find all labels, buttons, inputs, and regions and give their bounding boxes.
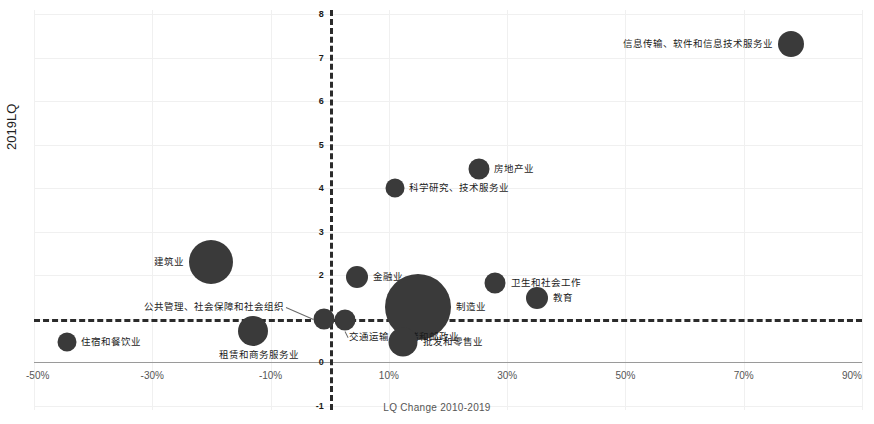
x-axis-baseline (34, 362, 862, 363)
bubble-chart: 2019LQ 876543210-1 -50%-30%-10%10%30%50%… (0, 0, 874, 424)
bubble-label: 教育 (553, 294, 573, 304)
x-axis-tick-label: 30% (497, 370, 517, 381)
gridline-horizontal (34, 14, 862, 15)
y-axis-tick-label: 8 (300, 9, 324, 19)
y-axis-tick-label: 0 (300, 357, 324, 367)
bubble-point[interactable] (778, 31, 804, 57)
x-axis-tick-label: 10% (379, 370, 399, 381)
bubble-label: 住宿和餐饮业 (81, 337, 141, 347)
bubble-label: 信息传输、软件和信息技术服务业 (623, 39, 773, 49)
x-axis-tick-label: 70% (734, 370, 754, 381)
bubble-label: 科学研究、技术服务业 (409, 183, 509, 193)
gridline-vertical (34, 10, 35, 410)
x-axis-title: LQ Change 2010-2019 (0, 402, 874, 413)
gridline-vertical (625, 10, 626, 410)
label-leader-line (345, 331, 349, 337)
y-axis-title: 2019LQ (4, 104, 19, 150)
bubble-point[interactable] (385, 179, 404, 198)
plot-area: 876543210-1 -50%-30%-10%10%30%50%70%90% … (34, 10, 862, 410)
bubble-point[interactable] (485, 273, 506, 294)
y-axis-tick-label: 3 (300, 227, 324, 237)
gridline-vertical (744, 10, 745, 410)
gridline-vertical (152, 10, 153, 410)
y-axis-tick-label: 6 (300, 96, 324, 106)
bubble-point[interactable] (526, 287, 548, 309)
bubble-label: 公共管理、社会保障和社会组织 (144, 302, 284, 312)
gridline-horizontal (34, 58, 862, 59)
bubble-point[interactable] (189, 240, 233, 284)
bubble-point[interactable] (346, 266, 368, 288)
gridline-horizontal (34, 145, 862, 146)
gridline-horizontal (34, 232, 862, 233)
x-axis-tick-label: -10% (259, 370, 282, 381)
gridline-vertical (507, 10, 508, 410)
x-axis-tick-label: -50% (26, 370, 49, 381)
bubble-point[interactable] (238, 316, 268, 346)
bubble-point[interactable] (468, 158, 489, 179)
gridline-horizontal (34, 275, 862, 276)
x-axis-tick-label: 90% (842, 370, 862, 381)
y-axis-tick-label: 7 (300, 53, 324, 63)
y-axis-tick-label: 2 (300, 270, 324, 280)
bubble-point[interactable] (57, 332, 76, 351)
gridline-horizontal (34, 101, 862, 102)
gridline-vertical (862, 10, 863, 410)
bubble-label: 房地产业 (494, 164, 534, 174)
x-axis-tick-label: 50% (615, 370, 635, 381)
bubble-point[interactable] (335, 310, 356, 331)
bubble-point[interactable] (389, 327, 418, 356)
x-axis-tick-label: -30% (141, 370, 164, 381)
bubble-label: 租赁和商务服务业 (219, 350, 299, 360)
y-axis-tick-label: 4 (300, 183, 324, 193)
bubble-label: 批发和零售业 (423, 337, 483, 347)
gridline-vertical (389, 10, 390, 410)
reference-line-vertical (330, 10, 333, 410)
bubble-label: 卫生和社会工作 (511, 278, 581, 288)
bubble-label: 制造业 (456, 302, 486, 312)
bubble-point[interactable] (313, 308, 334, 329)
y-axis-tick-label: 5 (300, 140, 324, 150)
bubble-label: 建筑业 (154, 258, 184, 268)
